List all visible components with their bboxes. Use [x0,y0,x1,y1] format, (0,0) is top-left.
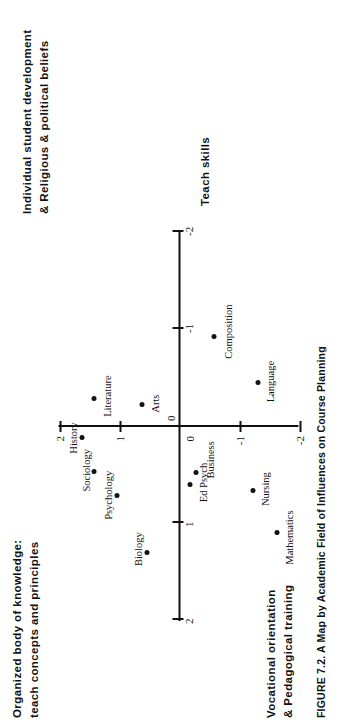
data-point [144,550,149,555]
y-tick [299,421,301,432]
axis-title-individual-student-development: Individual student development & Religio… [18,4,51,214]
x-tick [172,230,183,232]
data-point [187,482,192,487]
x-tick [172,618,183,620]
x-tick [172,521,183,523]
data-point-label: Nursing [259,472,270,506]
y-tick [59,421,61,432]
data-point [114,493,119,498]
data-point-label: Biology [132,532,143,566]
data-point-label: Sociology [80,449,91,492]
y-tick-label: -1 [233,436,245,448]
data-point [79,435,84,440]
x-tick-label: -2 [182,227,194,236]
data-point [91,469,96,474]
figure-caption: FIGURE 7.2. A Map by Academic Field of I… [314,6,326,718]
axis-title-vocational-orientation: Vocational orientation & Pedagogical tra… [262,503,295,718]
y-axis-line [58,425,298,427]
data-point [139,402,144,407]
x-tick-label: 0 [164,416,176,422]
data-point-label: Composition [222,305,233,359]
figure-caption-text: A Map by Academic Field of Influences on… [314,346,326,653]
data-point-label: Psychology [102,471,113,520]
y-tick-label: -2 [293,436,305,448]
x-tick-label: -1 [182,324,194,333]
data-point-label: Business [204,441,215,478]
x-tick-label: 1 [182,522,194,528]
axis-title-organized-body-of-knowledge: Organized body of knowledge: teach conce… [8,528,41,718]
figure-number: FIGURE 7.2. [314,656,326,718]
data-point [255,380,260,385]
y-tick-label: 1 [113,436,125,448]
y-tick [239,421,241,432]
data-point-label: Language [264,361,275,402]
data-point-label: History [67,422,78,454]
data-point [193,470,198,475]
data-point [211,334,216,339]
x-tick-label: 2 [182,619,194,625]
axis-title-teach-skills: Teach skills [196,6,213,206]
figure-stage: 210-1-221-1-20 BiologyPsychologySociolog… [0,0,341,726]
data-point [250,488,255,493]
x-tick [172,327,183,329]
y-tick-label: 2 [53,436,65,448]
data-point-label: Arts [149,395,160,413]
figure-page: 210-1-221-1-20 BiologyPsychologySociolog… [0,0,341,726]
y-tick-label: 0 [183,436,195,448]
data-point [91,396,96,401]
data-point-label: Literature [101,375,112,416]
y-tick [119,421,121,432]
